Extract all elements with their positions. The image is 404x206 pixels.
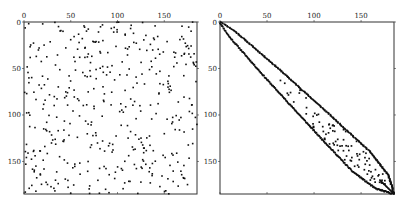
spy-plot-reordered: 050100150050100150 [202, 0, 404, 206]
y-tick-label: 100 [8, 111, 21, 119]
x-tick-label: 100 [307, 12, 320, 20]
y-tick-label: 0 [17, 19, 21, 27]
spy-plot-original: 050100150050100150 [0, 0, 202, 206]
nonzero-markers [219, 21, 395, 194]
x-tick-label: 100 [111, 12, 124, 20]
y-tick-label: 100 [204, 111, 217, 119]
y-tick-label: 50 [208, 65, 217, 73]
x-tick-label: 150 [354, 12, 367, 20]
x-tick-label: 0 [22, 12, 26, 20]
x-tick-label: 0 [218, 12, 222, 20]
y-tick-label: 150 [204, 158, 217, 166]
y-tick-label: 50 [12, 65, 21, 73]
x-tick-label: 150 [158, 12, 171, 20]
x-tick-label: 50 [66, 12, 75, 20]
plot-frame [24, 22, 197, 194]
y-tick-label: 0 [213, 19, 217, 27]
y-tick-label: 150 [8, 158, 21, 166]
x-tick-label: 50 [263, 12, 272, 20]
nonzero-markers [24, 21, 198, 194]
